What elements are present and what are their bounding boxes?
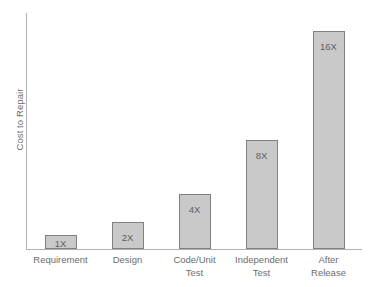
x-axis-label-design: Design bbox=[94, 254, 161, 267]
x-axis-label-code-unit-test: Code/UnitTest bbox=[161, 254, 228, 279]
bar-after-release[interactable]: 16X bbox=[313, 31, 345, 249]
plot-area: 1X 2X 4X 8X 16X bbox=[27, 13, 362, 249]
bar-value-label: 8X bbox=[247, 151, 277, 161]
y-axis-label: Cost to Repair bbox=[14, 60, 25, 180]
bar-independent-test[interactable]: 8X bbox=[246, 140, 278, 249]
bar-chart: Cost to Repair 1X 2X 4X 8X 16X bbox=[0, 0, 380, 287]
x-axis-label-after-release: AfterRelease bbox=[295, 254, 362, 279]
x-axis-category-labels: Requirement Design Code/UnitTest Indepen… bbox=[27, 254, 362, 287]
bar-value-label: 2X bbox=[113, 233, 143, 243]
x-axis-label-independent-test: IndependentTest bbox=[228, 254, 295, 279]
bar-design[interactable]: 2X bbox=[112, 222, 144, 249]
bar-code-unit-test[interactable]: 4X bbox=[179, 194, 211, 249]
bar-slot-requirement: 1X bbox=[27, 13, 94, 249]
bar-slot-after-release: 16X bbox=[295, 13, 362, 249]
x-axis-line bbox=[26, 249, 362, 250]
bar-slot-independent-test: 8X bbox=[228, 13, 295, 249]
bar-value-label: 1X bbox=[46, 239, 76, 249]
bar-value-label: 16X bbox=[314, 42, 344, 52]
x-axis-label-requirement: Requirement bbox=[27, 254, 94, 267]
bar-slot-design: 2X bbox=[94, 13, 161, 249]
bar-slot-code-unit-test: 4X bbox=[161, 13, 228, 249]
bar-value-label: 4X bbox=[180, 205, 210, 215]
bar-requirement[interactable]: 1X bbox=[45, 235, 77, 249]
